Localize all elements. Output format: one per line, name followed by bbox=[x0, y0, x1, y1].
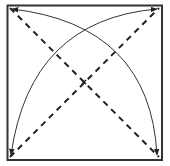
fold-diagram bbox=[0, 0, 170, 166]
